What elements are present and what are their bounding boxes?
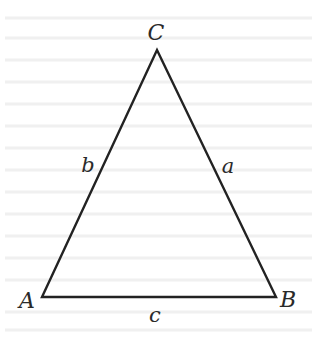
- side-label-a: a: [222, 154, 235, 178]
- vertex-label-c: C: [148, 20, 165, 45]
- triangle-shape: [42, 50, 276, 297]
- triangle-figure: A B C a b c: [0, 0, 317, 339]
- side-label-b: b: [81, 153, 94, 177]
- side-label-c: c: [149, 303, 161, 327]
- vertex-label-a: A: [17, 288, 35, 313]
- vertex-label-b: B: [279, 287, 296, 312]
